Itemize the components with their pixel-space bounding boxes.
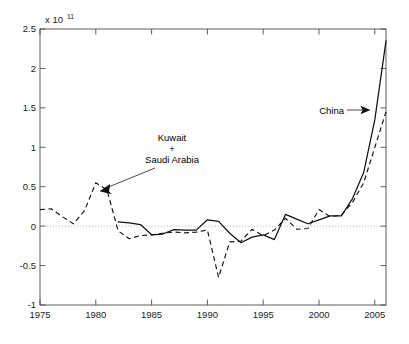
china-annotation: China <box>319 105 370 116</box>
annotation-line-1: Kuwait <box>158 132 187 143</box>
exponent-power: 11 <box>67 13 74 20</box>
y-tick-label: 1.5 <box>23 102 36 113</box>
axes-frame <box>40 29 386 305</box>
y-tick-label: 0 <box>31 221 36 232</box>
y-tick-label: -0.5 <box>20 260 36 271</box>
plot-border <box>40 29 386 305</box>
kuwait-saudi-annotation: Kuwait + Saudi Arabia <box>100 132 200 194</box>
y-tick-label: 2 <box>31 63 36 74</box>
series-kuwait-saudi-arabia <box>40 112 386 278</box>
figure-container: 2.5 2 1.5 1 0.5 0 -0.5 -1 1975 1980 1985… <box>0 0 409 344</box>
y-axis-exponent-label: x 10 11 <box>45 13 74 26</box>
chart-canvas: 2.5 2 1.5 1 0.5 0 -0.5 -1 1975 1980 1985… <box>0 0 409 344</box>
y-tick-label: 0.5 <box>23 181 36 192</box>
x-tick-label: 1995 <box>253 309 274 320</box>
y-axis-tick-labels: 2.5 2 1.5 1 0.5 0 -0.5 -1 <box>20 23 36 310</box>
annotation-leader-line <box>106 168 155 188</box>
annotation-line-2: + <box>169 143 175 154</box>
y-axis-ticks <box>40 29 386 305</box>
x-tick-label: 1990 <box>197 309 218 320</box>
y-tick-label: 1 <box>31 142 36 153</box>
y-tick-label: 2.5 <box>23 23 36 34</box>
x-tick-label: 2005 <box>364 309 385 320</box>
annotation-line-3: Saudi Arabia <box>145 154 200 165</box>
x-tick-label: 1975 <box>29 309 50 320</box>
x-tick-label: 2000 <box>308 309 329 320</box>
x-tick-label: 1980 <box>85 309 106 320</box>
arrow-left-icon <box>100 184 112 194</box>
x-tick-label: 1985 <box>141 309 162 320</box>
exponent-base: x 10 <box>45 14 63 25</box>
x-axis-tick-labels: 1975 1980 1985 1990 1995 2000 2005 <box>29 309 385 320</box>
x-axis-ticks <box>40 29 375 305</box>
annotation-label: China <box>319 105 345 116</box>
